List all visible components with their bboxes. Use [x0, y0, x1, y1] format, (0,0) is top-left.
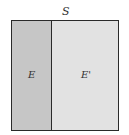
- event-region: E: [12, 21, 52, 130]
- sample-space-rectangle: E E': [11, 20, 119, 131]
- event-label: E: [28, 69, 35, 80]
- complement-region: E': [52, 21, 118, 130]
- sample-space-label: S: [62, 6, 70, 18]
- complement-label: E': [81, 69, 91, 80]
